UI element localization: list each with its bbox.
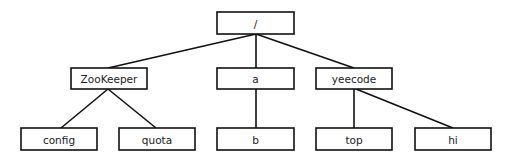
node-config-label: config bbox=[43, 134, 75, 146]
node-config: config bbox=[21, 128, 97, 150]
node-yeecode: yeecode bbox=[316, 68, 392, 89]
edge-root-zookeeper bbox=[108, 34, 256, 68]
znode-tree-diagram: / ZooKeeper a yeecode config quota b to bbox=[0, 0, 508, 163]
node-yeecode-label: yeecode bbox=[332, 73, 376, 85]
edge-zookeeper-config bbox=[61, 89, 108, 128]
edge-zookeeper-quota bbox=[108, 89, 156, 128]
node-b: b bbox=[217, 128, 294, 150]
node-quota: quota bbox=[119, 128, 195, 150]
node-a-label: a bbox=[252, 73, 258, 85]
node-zookeeper-label: ZooKeeper bbox=[81, 73, 138, 85]
nodes: / ZooKeeper a yeecode config quota b to bbox=[21, 12, 491, 150]
node-zookeeper: ZooKeeper bbox=[71, 68, 147, 89]
node-a: a bbox=[217, 68, 294, 89]
edge-yeecode-hi bbox=[356, 89, 453, 128]
node-hi: hi bbox=[415, 128, 491, 150]
node-top-label: top bbox=[345, 134, 363, 146]
node-root: / bbox=[217, 12, 294, 34]
node-hi-label: hi bbox=[448, 134, 458, 146]
node-root-label: / bbox=[254, 18, 258, 30]
node-b-label: b bbox=[252, 134, 259, 146]
node-quota-label: quota bbox=[142, 134, 172, 146]
edge-root-yeecode bbox=[256, 34, 354, 68]
node-top: top bbox=[316, 128, 392, 150]
